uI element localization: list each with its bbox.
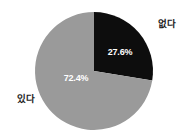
pie-chart: 27.6% 72.4% 없다 있다 (0, 0, 185, 138)
pie-category-label-none: 없다 (158, 19, 176, 29)
pie-slice-value-label-have: 72.4% (64, 74, 89, 83)
pie-category-label-have: 있다 (17, 94, 35, 104)
pie-slice-value-label-none: 27.6% (108, 48, 133, 57)
